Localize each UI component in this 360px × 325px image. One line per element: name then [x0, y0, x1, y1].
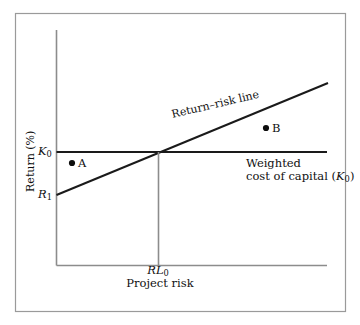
wacc-label-line2-prefix: cost of capital ( [246, 169, 336, 183]
y-tick-label-r1: R1 [38, 188, 52, 203]
y-axis-title: Return (%) [25, 106, 38, 216]
data-point-a-marker [69, 160, 75, 166]
y-tick-r1-subscript: 1 [47, 192, 52, 202]
x-tick-rl0-symbol: RL [147, 263, 163, 277]
data-point-a-label: A [78, 157, 86, 170]
wacc-label-line1: Weighted [246, 156, 301, 170]
data-point-b-marker [263, 125, 269, 131]
x-tick-label-rl0: RL0 [133, 264, 183, 279]
wacc-label-line2-symbol: K [336, 169, 345, 183]
weighted-cost-of-capital-label: Weighted cost of capital (K0) [246, 157, 354, 185]
x-tick-rl0-subscript: 0 [164, 268, 169, 278]
x-axis-title: Project risk [115, 277, 205, 290]
y-tick-k0-subscript: 0 [47, 149, 52, 159]
wacc-label-line2-suffix: ) [350, 169, 355, 183]
y-tick-label-k0: K0 [38, 145, 52, 160]
y-tick-k0-symbol: K [38, 144, 47, 158]
y-tick-r1-symbol: R [38, 187, 47, 201]
data-point-b-label: B [272, 122, 280, 135]
figure-container: Return (%) Project risk K0 R1 RL0 Return… [0, 0, 360, 325]
